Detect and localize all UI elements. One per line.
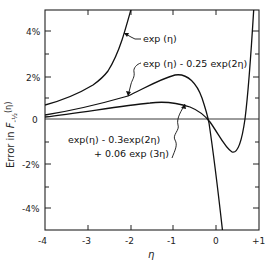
y-tick-label: -4% (22, 204, 40, 214)
y-axis-title: Error in F-½(η) (4, 102, 19, 168)
x-tick-label: -2 (125, 236, 134, 246)
leader-exp-03 (172, 104, 185, 158)
x-tick-label: 0 (213, 236, 219, 246)
y-tick-labels: 4% 2% 0 -2% -4% (22, 27, 41, 214)
y-tick-label: 0 (32, 115, 38, 125)
x-tick-label: -3 (82, 236, 91, 246)
y-tick-label: -2% (22, 160, 40, 170)
x-tick-label: -4 (38, 236, 47, 246)
annotation-exp-03-line1: exp(η) - 0.3exp(2η) (68, 134, 160, 145)
x-tick-label: +1 (252, 236, 265, 246)
y-axis-title-arg: (η) (4, 102, 13, 113)
curve-exp-minus-03-plus-006 (45, 5, 254, 152)
x-axis-title: η (148, 249, 154, 260)
annotation-exp-03-line2: + 0.06 exp (3η) (94, 148, 169, 159)
annotation-exp-025: exp (η) - 0.25 exp(2η) (143, 58, 247, 69)
svg-text:Error in F-½(η): Error in F-½(η) (4, 102, 19, 168)
x-tick-label: -1 (167, 236, 176, 246)
curve-exp (45, 6, 132, 105)
y-axis-title-prefix: Error in (5, 128, 16, 168)
annotation-arrows (124, 33, 186, 109)
y-tick-label: 2% (26, 73, 41, 83)
x-tick-labels: -4 -3 -2 -1 0 +1 (38, 236, 265, 246)
annotation-exp: exp (η) (143, 33, 177, 44)
error-chart: -4 -3 -2 -1 0 +1 4% 2% 0 -2% -4% η Error… (0, 0, 267, 260)
y-axis-title-sub: -½ (11, 113, 19, 123)
y-tick-label: 4% (26, 27, 41, 37)
